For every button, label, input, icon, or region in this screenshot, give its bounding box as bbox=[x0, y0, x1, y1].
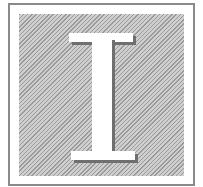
hatched-background: I bbox=[19, 14, 184, 176]
drop-cap-letter-i: I bbox=[19, 14, 184, 176]
letter-bottom-serif bbox=[71, 151, 135, 160]
drop-cap-frame: I bbox=[8, 3, 195, 186]
letter-stem bbox=[92, 40, 112, 152]
